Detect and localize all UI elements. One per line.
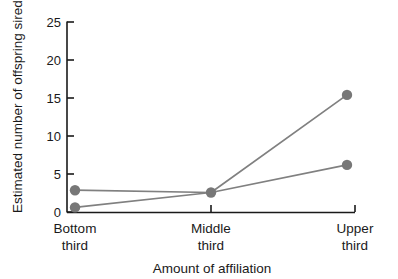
y-tick-label: 15: [47, 91, 61, 106]
data-point: [342, 160, 352, 170]
y-axis-ticks: [67, 22, 74, 212]
y-tick-label: 25: [47, 15, 61, 30]
data-point-markers: [70, 90, 352, 213]
data-point: [206, 187, 216, 197]
x-tick-label-upper: Upper: [337, 221, 374, 236]
x-tick-label-middle: Middle: [191, 221, 231, 236]
data-point: [70, 202, 80, 212]
y-tick-label: 10: [47, 129, 61, 144]
chart-figure: Estimated number of offspring sired 25 2…: [0, 0, 398, 279]
y-axis-tick-labels: 25 20 15 10 5 0: [47, 15, 61, 220]
x-tick-label-bottom-2: third: [62, 238, 88, 253]
y-tick-label: 0: [54, 205, 61, 220]
y-tick-label: 20: [47, 53, 61, 68]
data-point: [342, 90, 352, 100]
y-axis-title: Estimated number of offspring sired: [10, 0, 25, 213]
x-axis-ticks: [75, 205, 355, 212]
line-chart: Estimated number of offspring sired 25 2…: [0, 0, 398, 279]
y-tick-label: 5: [54, 167, 61, 182]
data-point: [70, 185, 80, 195]
x-tick-label-middle-2: third: [198, 238, 224, 253]
x-tick-label-bottom: Bottom: [54, 221, 97, 236]
x-axis-category-labels: Bottom third Middle third Upper third: [54, 221, 374, 253]
x-tick-label-upper-2: third: [342, 238, 368, 253]
x-axis-title: Amount of affiliation: [153, 261, 271, 276]
